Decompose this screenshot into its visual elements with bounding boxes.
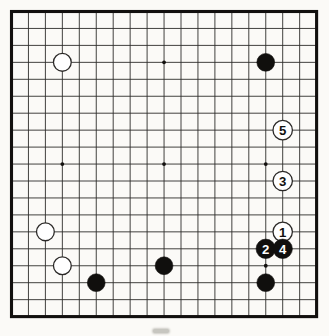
star-point [162,60,166,64]
go-board: 53124 [0,0,329,336]
stone-white [37,223,55,241]
stone-number-label: 3 [279,174,286,189]
move-stone-4-black: 4 [273,239,292,258]
stone-black [87,274,105,292]
move-stone-2-black: 2 [256,239,275,258]
stone-black [257,274,275,292]
stone-number-label: 4 [279,242,287,257]
stone-number-label: 5 [279,123,286,138]
star-point [162,162,166,166]
star-point [60,162,64,166]
stone-number-label: 1 [279,225,286,240]
scanned-diagram-page: 53124 [0,0,329,336]
stone-black [257,53,275,71]
move-stone-5-white: 5 [273,120,292,139]
stone-black [155,257,173,275]
caption-remnant [153,329,169,333]
move-stone-1-white: 1 [273,222,292,241]
move-stone-3-white: 3 [273,171,292,190]
star-point [264,162,268,166]
stone-white [53,257,71,275]
stone-number-label: 2 [262,242,269,257]
star-point [264,264,268,268]
stone-white [53,53,71,71]
